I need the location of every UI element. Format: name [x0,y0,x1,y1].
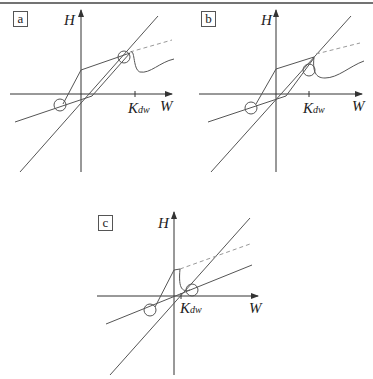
panel-b-label: b [201,11,216,27]
figure-canvas [0,0,373,379]
panel-a-x-label: W [160,98,173,115]
panel-c-x-label: W [249,300,262,317]
panel-a [10,10,174,172]
panel-c-tick-label: Kdw [180,300,202,317]
panel-b [199,10,364,172]
panel-c [97,212,258,375]
panel-b-x-label: W [352,98,365,115]
panel-a-tick-label: Kdw [128,100,150,117]
panel-b-y-label: H [261,12,272,29]
panel-a-label: a [13,11,28,27]
panel-c-label: c [98,215,113,231]
panel-b-tick-label: Kdw [303,100,325,117]
panel-c-y-label: H [158,215,169,232]
panel-a-y-label: H [64,12,75,29]
